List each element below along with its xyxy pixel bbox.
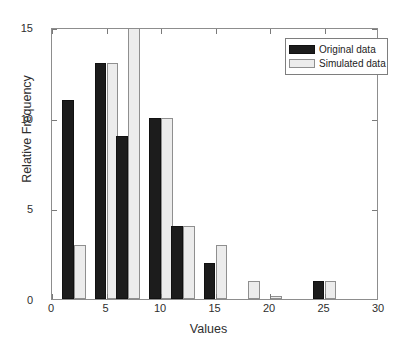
y-tick-mark-5 bbox=[372, 210, 377, 211]
x-tick-mark-0 bbox=[52, 294, 53, 299]
y-tick-mark-15 bbox=[372, 29, 377, 30]
bar-original-12 bbox=[171, 226, 183, 299]
x-tick-label-25: 25 bbox=[317, 303, 329, 314]
x-tick-mark-10 bbox=[161, 29, 162, 34]
bar-simulated-25 bbox=[325, 281, 337, 299]
x-tick-mark-20 bbox=[270, 294, 271, 299]
x-tick-label-20: 20 bbox=[263, 303, 275, 314]
bar-simulated-18 bbox=[248, 281, 260, 299]
y-tick-label-0: 0 bbox=[27, 295, 33, 306]
y-tick-label-5: 5 bbox=[27, 204, 33, 215]
y-tick-label-10: 10 bbox=[21, 114, 33, 125]
y-tick-mark-10 bbox=[52, 120, 57, 121]
y-tick-mark-10 bbox=[372, 120, 377, 121]
chart-legend: Original dataSimulated data bbox=[285, 38, 388, 75]
x-tick-label-10: 10 bbox=[154, 303, 166, 314]
legend-label: Simulated data bbox=[319, 59, 386, 69]
x-tick-mark-25 bbox=[325, 294, 326, 299]
x-tick-mark-20 bbox=[270, 29, 271, 34]
bar-original-15 bbox=[204, 263, 216, 299]
bar-original-5 bbox=[95, 63, 107, 299]
y-tick-label-15: 15 bbox=[21, 23, 33, 34]
x-tick-label-15: 15 bbox=[208, 303, 220, 314]
bar-chart-figure: Relative Frequency 051015 051015202530 V… bbox=[0, 0, 417, 354]
bar-simulated-7 bbox=[128, 28, 140, 299]
x-tick-mark-15 bbox=[216, 294, 217, 299]
x-tick-mark-0 bbox=[52, 29, 53, 34]
bar-original-7 bbox=[116, 136, 128, 299]
x-tick-mark-5 bbox=[107, 294, 108, 299]
y-tick-mark-5 bbox=[52, 210, 57, 211]
x-tick-mark-5 bbox=[107, 29, 108, 34]
x-axis-label: Values bbox=[0, 322, 417, 336]
legend-swatch-icon-orig bbox=[289, 45, 315, 54]
x-tick-mark-25 bbox=[325, 29, 326, 34]
bar-simulated-2 bbox=[74, 245, 86, 299]
legend-item-sim: Simulated data bbox=[289, 57, 384, 70]
bar-original-25 bbox=[313, 281, 325, 299]
x-tick-label-0: 0 bbox=[48, 303, 54, 314]
bar-simulated-20 bbox=[270, 296, 282, 299]
x-tick-label-5: 5 bbox=[102, 303, 108, 314]
bar-simulated-12 bbox=[183, 226, 195, 299]
bar-original-2 bbox=[62, 100, 74, 299]
legend-item-orig: Original data bbox=[289, 43, 384, 56]
legend-swatch-icon-sim bbox=[289, 59, 315, 68]
x-tick-mark-15 bbox=[216, 29, 217, 34]
bar-original-10 bbox=[149, 118, 161, 299]
x-tick-mark-10 bbox=[161, 294, 162, 299]
legend-label: Original data bbox=[319, 45, 376, 55]
x-tick-label-30: 30 bbox=[372, 303, 384, 314]
bar-simulated-15 bbox=[216, 245, 228, 299]
